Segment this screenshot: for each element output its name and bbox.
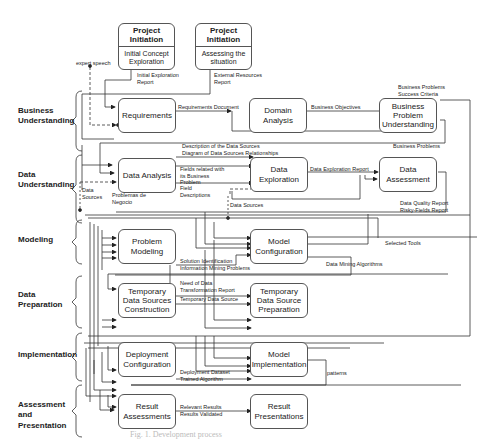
label-expert-speech: expert speech xyxy=(76,60,111,67)
label-business-problems-success-criteria: Business Problems Success Criteria xyxy=(398,84,446,97)
label-trained-algorithm: Trained Algorithm xyxy=(180,376,223,383)
label-description-data-sources: Description of the Data Sources xyxy=(182,143,260,150)
label-relevant-results: Relevant Results xyxy=(180,404,222,411)
label-business-problems: Business Problems xyxy=(393,143,440,150)
phase-assessment-presentation: Assessment and Presentation xyxy=(18,400,73,431)
requirements-box[interactable]: Requirements xyxy=(118,98,176,133)
model-configuration-box[interactable]: Model Configuration xyxy=(250,229,308,264)
project-initiation-body: Assessing the situation xyxy=(196,47,251,69)
label-temporary-data-source: Temporary Data Source xyxy=(180,296,238,303)
phase-implementation: Implementation xyxy=(18,350,78,360)
figure-caption: Fig. 1. Development process xyxy=(130,430,222,439)
label-data-sources-left: Data Sources xyxy=(82,187,106,200)
label-requirements-document: Requirements Document xyxy=(178,104,239,111)
label-data-quality-report: Data Quality Report xyxy=(400,200,448,207)
business-problem-understanding-box[interactable]: Business Problem Understanding xyxy=(379,98,437,133)
label-problemas-negocio: Problemas de Negocio xyxy=(112,192,146,205)
label-need-transformation-report: Need of Data Transformation Report xyxy=(180,280,242,293)
project-initiation-body: Initial Concept Exploration xyxy=(119,47,174,69)
problem-modeling-box[interactable]: Problem Modeling xyxy=(118,229,176,264)
label-fields-related: Fields related with its Business Problem xyxy=(180,166,228,186)
deployment-configuration-box[interactable]: Deployment Configuration xyxy=(118,342,176,377)
label-initial-exploration-report: Initial Exploration Report xyxy=(137,72,182,85)
domain-analysis-box[interactable]: Domain Analysis xyxy=(249,98,307,133)
label-data-mining-algorithms: Data Mining Algorithms xyxy=(326,261,383,268)
label-results-validated: Results Validated xyxy=(180,411,222,418)
result-assessments-box[interactable]: Result Assessments xyxy=(118,394,176,429)
temporary-data-sources-construction-box[interactable]: Temporary Data Sources Construction xyxy=(118,283,176,318)
temporary-data-source-preparation-box[interactable]: Temporary Data Source Preparation xyxy=(250,283,308,318)
project-initiation-box-1[interactable]: Project Initiation Initial Concept Explo… xyxy=(118,23,175,70)
label-deployment-dataset: Deployment Dataset xyxy=(180,369,230,376)
phase-data-preparation: Data Preparation xyxy=(18,290,73,311)
label-data-exploration-report: Data Exploration Report xyxy=(310,166,369,173)
phase-business-understanding: Business Understanding xyxy=(18,106,73,127)
label-business-objectives: Business Objectives xyxy=(311,104,361,111)
phase-modeling: Modeling xyxy=(18,235,73,245)
data-assessment-box[interactable]: Data Assessment xyxy=(379,157,437,192)
label-patterns: patterns xyxy=(327,370,347,377)
label-field-descriptions: Field Descriptions xyxy=(180,185,210,198)
project-initiation-title: Project Initiation xyxy=(196,24,251,47)
model-implementation-box[interactable]: Model Implementation xyxy=(250,342,308,377)
label-selected-tools: Selected Tools xyxy=(385,240,421,247)
label-risky-fields-report: Risky-Fields Report xyxy=(400,207,448,214)
label-information-mining-problems: Information Mining Problems xyxy=(180,265,250,272)
data-exploration-box[interactable]: Data Exploration xyxy=(250,157,308,192)
project-initiation-title: Project Initiation xyxy=(119,24,174,47)
label-data-sources-mid: Data Sources xyxy=(230,202,263,209)
project-initiation-box-2[interactable]: Project Initiation Assessing the situati… xyxy=(195,23,252,70)
label-external-resources-report: External Resources Report xyxy=(214,72,264,85)
label-diagram-data-sources: Diagram of Data Sources Relationships xyxy=(182,150,278,157)
result-presentations-box[interactable]: Result Presentations xyxy=(250,394,308,429)
data-analysis-box[interactable]: Data Analysis xyxy=(118,158,176,193)
phase-data-understanding: Data Understanding xyxy=(18,170,73,191)
label-solution-identification: Solution Identification xyxy=(180,258,232,265)
